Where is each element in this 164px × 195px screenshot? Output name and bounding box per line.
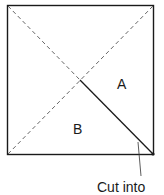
corner-dot (151, 152, 154, 155)
cut-into-caption: Cut into (97, 179, 145, 195)
region-a-label: A (117, 76, 127, 92)
leader-line (138, 142, 141, 176)
cut-diagonal-dashed-half (8, 6, 80, 80)
region-b-label: B (73, 121, 82, 137)
cut-diagram: A B Cut into (0, 0, 164, 195)
